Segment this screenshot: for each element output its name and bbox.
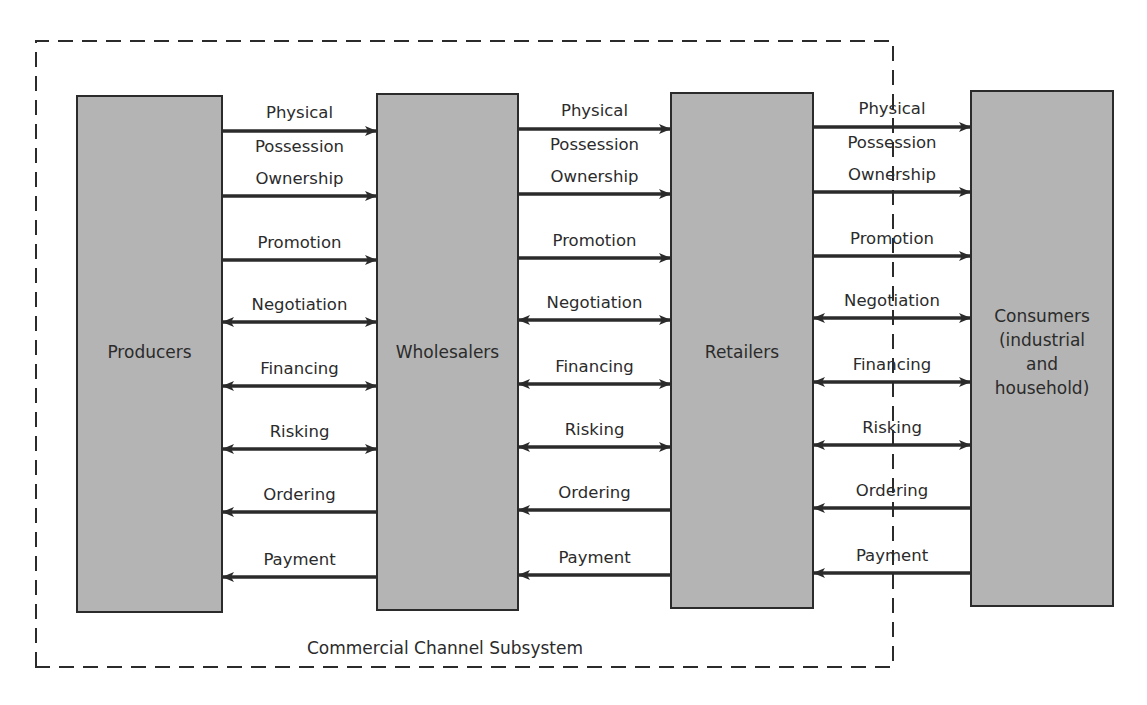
flow-payment: Payment bbox=[223, 550, 376, 577]
flow-label-risking: Risking bbox=[862, 418, 922, 437]
flow-arrows-group: PhysicalPossessionOwnershipPromotionNego… bbox=[223, 99, 970, 577]
flow-promotion: Promotion bbox=[519, 231, 670, 258]
flow-financing: Financing bbox=[519, 357, 670, 384]
flow-label-promotion: Promotion bbox=[258, 233, 342, 252]
channel-flows-diagram: ProducersWholesalersRetailersConsumers(i… bbox=[0, 0, 1147, 705]
flow-label-payment: Payment bbox=[856, 546, 929, 565]
entity-box-wholesalers: Wholesalers bbox=[377, 94, 518, 610]
subsystem-label: Commercial Channel Subsystem bbox=[307, 638, 583, 658]
flow-label-promotion: Promotion bbox=[850, 229, 934, 248]
wholesalers-label: Wholesalers bbox=[396, 342, 500, 362]
flow-label-risking: Risking bbox=[565, 420, 625, 439]
flow-physical-possession: PhysicalPossession bbox=[814, 99, 970, 152]
flow-physical-possession: PhysicalPossession bbox=[223, 103, 376, 156]
flow-negotiation: Negotiation bbox=[519, 293, 670, 320]
flow-label-financing: Financing bbox=[260, 359, 339, 378]
retailers-label: Retailers bbox=[705, 342, 779, 362]
flow-label-ownership: Ownership bbox=[551, 167, 639, 186]
consumers-label: (industrial bbox=[999, 330, 1085, 350]
flow-physical-possession: PhysicalPossession bbox=[519, 101, 670, 154]
flow-ordering: Ordering bbox=[519, 483, 670, 510]
flow-label-ordering: Ordering bbox=[856, 481, 928, 500]
entity-box-retailers: Retailers bbox=[671, 93, 813, 608]
flow-label-physical-possession: Possession bbox=[255, 137, 344, 156]
flow-label-physical-possession: Physical bbox=[266, 103, 333, 122]
flow-ownership: Ownership bbox=[519, 167, 670, 194]
entity-box-consumers: Consumers(industrialandhousehold) bbox=[971, 91, 1113, 606]
flow-promotion: Promotion bbox=[223, 233, 376, 260]
flow-label-ownership: Ownership bbox=[848, 165, 936, 184]
flow-risking: Risking bbox=[519, 420, 670, 447]
flow-financing: Financing bbox=[814, 355, 970, 382]
producers-label: Producers bbox=[107, 342, 191, 362]
flow-label-negotiation: Negotiation bbox=[547, 293, 643, 312]
flow-payment: Payment bbox=[814, 546, 970, 573]
flow-label-promotion: Promotion bbox=[553, 231, 637, 250]
flow-financing: Financing bbox=[223, 359, 376, 386]
flow-label-ordering: Ordering bbox=[558, 483, 630, 502]
flow-label-physical-possession: Physical bbox=[561, 101, 628, 120]
consumers-label: household) bbox=[995, 378, 1090, 398]
flow-label-negotiation: Negotiation bbox=[252, 295, 348, 314]
flow-label-physical-possession: Possession bbox=[847, 133, 936, 152]
flow-label-ordering: Ordering bbox=[263, 485, 335, 504]
flow-gap-wholesalers-to-retailers: PhysicalPossessionOwnershipPromotionNego… bbox=[519, 101, 670, 575]
entity-box-producers: Producers bbox=[77, 96, 222, 612]
consumers-label: and bbox=[1026, 354, 1058, 374]
flow-risking: Risking bbox=[223, 422, 376, 449]
flow-label-negotiation: Negotiation bbox=[844, 291, 940, 310]
flow-gap-producers-to-wholesalers: PhysicalPossessionOwnershipPromotionNego… bbox=[223, 103, 376, 577]
flow-ordering: Ordering bbox=[223, 485, 376, 512]
flow-payment: Payment bbox=[519, 548, 670, 575]
flow-label-physical-possession: Physical bbox=[858, 99, 925, 118]
flow-negotiation: Negotiation bbox=[223, 295, 376, 322]
flow-label-payment: Payment bbox=[558, 548, 631, 567]
flow-label-financing: Financing bbox=[555, 357, 634, 376]
flow-label-ownership: Ownership bbox=[256, 169, 344, 188]
flow-ownership: Ownership bbox=[814, 165, 970, 192]
consumers-label: Consumers bbox=[994, 306, 1090, 326]
flow-ownership: Ownership bbox=[223, 169, 376, 196]
flow-label-financing: Financing bbox=[853, 355, 932, 374]
flow-label-risking: Risking bbox=[270, 422, 330, 441]
flow-label-payment: Payment bbox=[263, 550, 336, 569]
flow-label-physical-possession: Possession bbox=[550, 135, 639, 154]
